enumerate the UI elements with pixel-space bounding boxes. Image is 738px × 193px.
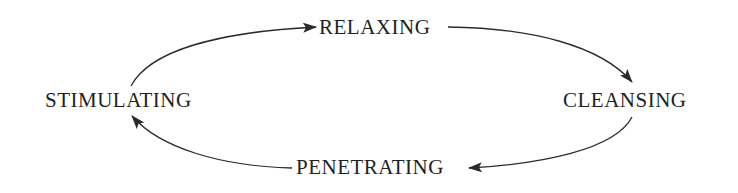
cycle-diagram: RELAXING CLEANSING PENETRATING STIMULATI… [0,0,738,193]
node-cleansing: CLEANSING [563,90,687,111]
arrow-cleansing-to-penetrating [469,117,632,168]
node-stimulating: STIMULATING [45,90,192,111]
arrow-relaxing-to-cleansing [448,27,632,82]
arrow-penetrating-to-stimulating [132,116,292,168]
arrow-stimulating-to-relaxing [131,27,316,86]
node-penetrating: PENETRATING [296,157,444,178]
node-relaxing: RELAXING [319,17,430,38]
